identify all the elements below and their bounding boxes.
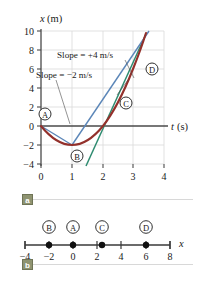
number-line-label-b: B — [46, 223, 52, 233]
number-line-label-d: D — [143, 223, 149, 233]
panel-divider-b — [33, 264, 193, 265]
slope-positive-annotation: Slope = +4 m/s — [57, 50, 113, 60]
y-tick-label: 10 — [24, 26, 34, 37]
panel-badge-b: b — [22, 259, 33, 270]
y-tick-label: 4 — [29, 83, 34, 94]
graph-point-marker-c: C — [120, 97, 132, 109]
y-axis — [37, 29, 41, 166]
graph-point-label-c: C — [123, 99, 129, 109]
number-line-marker-b: B — [43, 221, 56, 234]
number-line-marker-d: D — [140, 221, 153, 234]
position-number-line: −4 −2 0 2 4 6 8 x B A — [0, 202, 206, 282]
graph-point-marker-d: D — [146, 63, 158, 75]
graph-point-label-d: D — [149, 65, 155, 75]
graph-point-label-a: A — [42, 110, 49, 120]
number-line-tick-label: −2 — [44, 251, 55, 262]
x-tick-label: 3 — [131, 171, 136, 182]
tangent-segment-initial — [41, 126, 72, 145]
number-line-marker-c: C — [96, 221, 109, 234]
panel-divider-a — [33, 199, 193, 200]
y-axis-title-unit: (m) — [47, 13, 63, 25]
number-line-labels: B A C D — [43, 221, 153, 234]
number-line-dot-c — [99, 242, 105, 248]
graph-point-marker-a: A — [39, 108, 51, 120]
number-line-marker-a: A — [67, 221, 80, 234]
x-axis-title-symbol: t — [171, 121, 175, 132]
number-line-dot-a — [70, 242, 76, 248]
number-line-label-c: C — [99, 223, 105, 233]
number-line-tick-label: 6 — [144, 251, 149, 262]
number-line-label-a: A — [70, 223, 77, 233]
x-tick-label: 2 — [101, 171, 106, 182]
graph-point-marker-b: B — [71, 150, 83, 162]
x-tick-label: 0 — [39, 171, 44, 182]
y-tick-label: −4 — [23, 159, 34, 170]
y-tick-label: 6 — [29, 64, 34, 75]
figure-container: 10 8 6 4 2 0 −2 −4 0 1 2 3 4 x (m) t (s) — [0, 0, 206, 282]
x-tick-label: 4 — [162, 171, 167, 182]
y-tick-label: 0 — [29, 121, 34, 132]
y-tick-labels: 10 8 6 4 2 0 −2 −4 — [23, 26, 34, 170]
graph-point-label-b: B — [74, 152, 80, 162]
position-time-graph: 10 8 6 4 2 0 −2 −4 0 1 2 3 4 x (m) t (s) — [0, 0, 206, 200]
number-line-tick-label: 8 — [168, 251, 173, 262]
number-line-tick-label: 0 — [71, 251, 76, 262]
x-axis — [41, 126, 168, 168]
x-tick-labels: 0 1 2 3 4 — [39, 171, 167, 182]
y-tick-label: −2 — [23, 140, 34, 151]
x-axis-title-unit: (s) — [177, 121, 189, 133]
number-line-axis-label: x — [178, 238, 184, 249]
number-line-dot-b — [46, 242, 52, 248]
number-line-tick-label: 4 — [119, 251, 124, 262]
y-axis-title-symbol: x — [39, 13, 45, 24]
y-tick-label: 8 — [29, 45, 34, 56]
x-tick-label: 1 — [70, 171, 75, 182]
number-line-tick-label: 2 — [95, 251, 100, 262]
slope-negative-annotation: Slope = −2 m/s — [36, 70, 92, 80]
number-line-dot-d — [143, 242, 149, 248]
number-line-tick-labels: −4 −2 0 2 4 6 8 — [20, 251, 173, 262]
y-tick-label: 2 — [29, 102, 34, 113]
